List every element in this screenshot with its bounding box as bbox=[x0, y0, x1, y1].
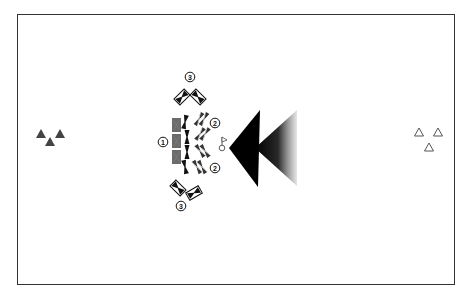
label-1-text: 1 bbox=[161, 139, 165, 146]
flag-marker-icon bbox=[219, 137, 227, 151]
block-column bbox=[172, 118, 181, 164]
label-3-bottom-text: 3 bbox=[179, 203, 183, 210]
outline-triangle-icon bbox=[415, 128, 424, 136]
label-2-top: 2 bbox=[210, 118, 220, 128]
label-2-bottom-text: 2 bbox=[213, 165, 217, 172]
label-2-bottom: 2 bbox=[210, 163, 220, 173]
outline-triangle-icon bbox=[425, 143, 434, 151]
right-triangle-group bbox=[415, 128, 443, 151]
label-3-bottom: 3 bbox=[176, 201, 186, 211]
gradient-arrow-icon bbox=[255, 110, 297, 186]
filled-triangle-icon bbox=[55, 129, 65, 138]
label-2-top-text: 2 bbox=[213, 120, 217, 127]
label-1: 1 bbox=[158, 137, 168, 147]
filled-triangle-icon bbox=[36, 129, 46, 138]
hourglass-column bbox=[181, 115, 189, 175]
outline-triangle-icon bbox=[434, 128, 443, 136]
label-3-top: 3 bbox=[185, 72, 195, 82]
label-3-top-text: 3 bbox=[188, 74, 192, 81]
filled-triangle-icon bbox=[45, 137, 55, 146]
solid-arrow-icon bbox=[229, 110, 260, 187]
bowtie-group-2 bbox=[192, 112, 211, 174]
formation-diagram: 1 2 2 3 3 bbox=[0, 0, 472, 295]
left-triangle-group bbox=[36, 129, 65, 146]
